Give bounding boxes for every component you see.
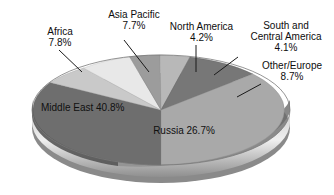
label-other-europe: Other/Europe 8.7% [253,60,331,82]
label-middle-east: Middle East 40.8% [41,102,121,113]
label-russia: Russia 26.7% [153,125,215,136]
pie-chart: Africa 7.8% Asia Pacific 7.7% North Amer… [0,0,334,195]
label-russia-percent: 26.7% [187,125,215,136]
label-north-america-percent: 4.2% [160,32,243,43]
label-south-central-percent: 4.1% [240,42,332,53]
label-africa-name: Africa [34,26,86,37]
label-middle-east-percent: 40.8% [96,102,124,113]
label-asia-pacific-name: Asia Pacific [94,9,174,20]
label-middle-east-name: Middle East [41,102,93,113]
label-north-america-name: North America [160,21,243,32]
label-north-america: North America 4.2% [160,21,243,43]
label-africa: Africa 7.8% [34,26,86,48]
leader-line-africa [59,50,82,72]
label-south-central-name-line1: South and [240,20,332,31]
label-africa-percent: 7.8% [34,37,86,48]
label-other-europe-name: Other/Europe [253,60,331,71]
label-south-central-name-line2: Central America [240,31,332,42]
label-russia-name: Russia [153,125,184,136]
label-other-europe-percent: 8.7% [253,71,331,82]
label-south-central-america: South and Central America 4.1% [240,20,332,53]
